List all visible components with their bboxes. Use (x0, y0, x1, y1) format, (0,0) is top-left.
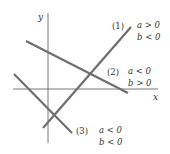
line-1-label: (1) (112, 22, 124, 31)
y-axis-label: y (38, 13, 43, 22)
line-3-cond-a: a < 0 (99, 126, 122, 135)
line-sign-diagram: y x (1) a > 0 b < 0 (2) a < 0 b > 0 (3) … (0, 0, 170, 154)
line-2-cond-a: a < 0 (128, 67, 151, 76)
line-2-cond-b: b > 0 (128, 79, 151, 88)
line-1-cond-a: a > 0 (137, 21, 160, 30)
line-1-cond-b: b < 0 (137, 33, 160, 42)
line-3-label: (3) (76, 127, 88, 136)
line-2-label: (2) (107, 68, 119, 77)
line-3-cond-b: b < 0 (99, 138, 122, 147)
line-1 (43, 27, 131, 128)
x-axis-label: x (153, 93, 158, 102)
